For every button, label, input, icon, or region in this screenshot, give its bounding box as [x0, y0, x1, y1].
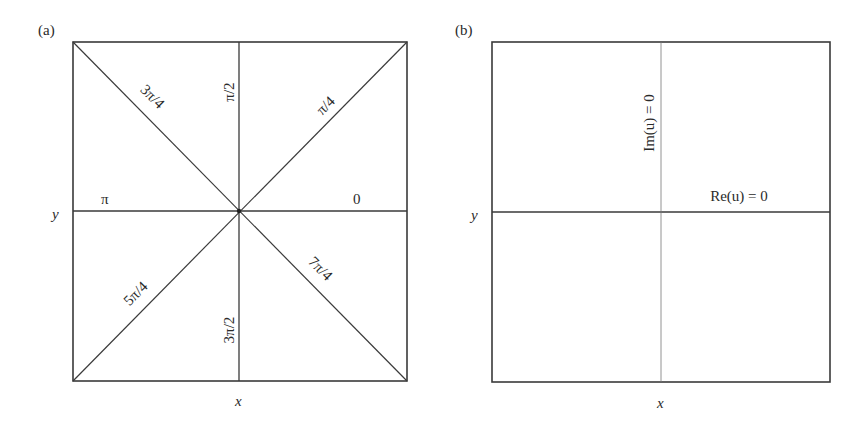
y-axis-label-a: y: [50, 206, 59, 222]
figure: (a) 0 π π/2 3π/2 3π/4 π/4 5π/4 7π/4 y x …: [0, 0, 859, 429]
x-axis-label-b: x: [656, 395, 664, 411]
origin-point: [237, 209, 241, 213]
label-pi-2: π/2: [221, 82, 237, 101]
panel-a: (a) 0 π π/2 3π/2 3π/4 π/4 5π/4 7π/4 y x: [38, 22, 407, 409]
x-axis-label-a: x: [234, 393, 242, 409]
label-0: 0: [353, 191, 361, 207]
label-3pi-4: 3π/4: [137, 81, 168, 112]
re-zero-label: Re(u) = 0: [710, 188, 768, 205]
panel-b-label: (b): [455, 22, 473, 39]
label-5pi-4: 5π/4: [120, 278, 151, 309]
label-pi-4: π/4: [313, 93, 338, 118]
im-zero-label: Im(u) = 0: [641, 94, 658, 152]
label-pi: π: [101, 191, 109, 207]
y-axis-label-b: y: [469, 207, 478, 223]
label-3pi-2: 3π/2: [221, 317, 237, 344]
label-7pi-4: 7π/4: [305, 253, 336, 284]
panel-a-label: (a): [38, 22, 55, 39]
panel-b: (b) Im(u) = 0 Re(u) = 0 y x: [455, 22, 830, 411]
